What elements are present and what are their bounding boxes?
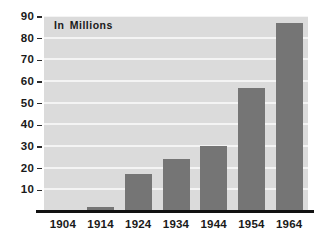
in-millions-annotation: In Millions <box>54 19 113 31</box>
y-axis-tick-mark <box>37 16 44 18</box>
gridline <box>44 37 308 39</box>
y-axis-tick-label: 90 <box>17 9 34 23</box>
y-axis-tick: 90 <box>17 9 44 23</box>
gridline <box>44 145 308 147</box>
y-axis-tick-mark <box>37 168 44 170</box>
x-axis-tick-label: 1924 <box>119 216 157 232</box>
x-axis-tick-label: 1934 <box>157 216 195 232</box>
x-axis-tick-label: 1954 <box>232 216 270 232</box>
gridline <box>44 80 308 82</box>
gridline <box>44 16 308 17</box>
y-axis-tick-label: 30 <box>17 139 34 153</box>
y-axis-tick-label: 80 <box>17 31 34 45</box>
gridline <box>44 102 308 104</box>
plot-area <box>44 16 308 211</box>
y-axis-tick-mark <box>37 190 44 192</box>
y-axis-tick-mark <box>37 81 44 83</box>
y-axis-tick-mark <box>37 103 44 105</box>
x-axis-tick-label: 1914 <box>82 216 120 232</box>
y-axis-tick-mark <box>37 60 44 62</box>
y-axis-tick-label: 10 <box>17 182 34 196</box>
bar <box>125 174 152 211</box>
y-axis-tick: 20 <box>17 161 44 175</box>
y-axis-tick: 10 <box>17 182 44 196</box>
y-axis-tick-label: 50 <box>17 96 34 110</box>
x-axis-line <box>36 210 314 213</box>
y-axis-tick-mark <box>37 38 44 40</box>
x-axis: 1904191419241934194419541964 <box>44 216 308 236</box>
bar <box>276 23 303 212</box>
y-axis-tick-label: 20 <box>17 161 34 175</box>
x-axis-tick-label: 1904 <box>44 216 82 232</box>
gridline <box>44 58 308 60</box>
y-axis-tick-label: 60 <box>17 74 34 88</box>
y-axis-tick-mark <box>37 125 44 127</box>
y-axis-tick: 60 <box>17 74 44 88</box>
y-axis-tick-label: 70 <box>17 52 34 66</box>
bar-chart-figure: 908070605040302010 In Millions 190419141… <box>0 0 318 244</box>
bar <box>163 159 190 211</box>
x-axis-tick-label: 1944 <box>195 216 233 232</box>
y-axis-tick: 80 <box>17 31 44 45</box>
y-axis-tick: 50 <box>17 96 44 110</box>
y-axis-tick: 70 <box>17 52 44 66</box>
y-axis-tick: 40 <box>17 117 44 131</box>
y-axis-tick-label: 40 <box>17 117 34 131</box>
x-axis-tick-label: 1964 <box>270 216 308 232</box>
gridline <box>44 123 308 125</box>
bar <box>238 88 265 212</box>
y-axis-tick-mark <box>37 146 44 148</box>
bar <box>200 146 227 211</box>
y-axis: 908070605040302010 <box>0 0 44 244</box>
y-axis-tick: 30 <box>17 139 44 153</box>
